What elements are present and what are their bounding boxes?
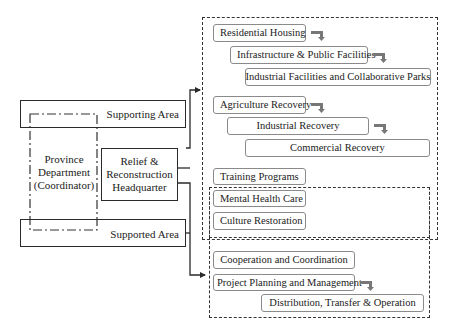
turn-down-arrow-icon (311, 31, 325, 41)
turn-down-arrow-icon (373, 53, 387, 63)
turn-down-arrow-icon (360, 281, 374, 291)
turn-down-arrow-icon (311, 103, 325, 113)
turn-down-arrow-icon (374, 124, 388, 134)
turn-arrows (0, 0, 454, 336)
